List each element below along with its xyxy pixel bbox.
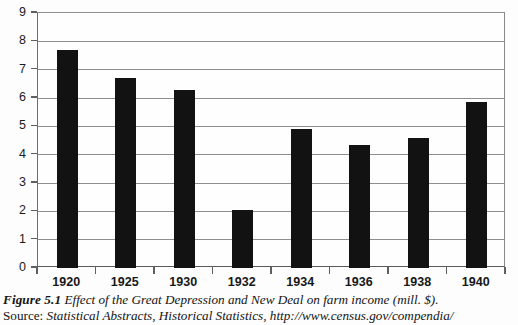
x-axis-tick bbox=[36, 267, 37, 274]
y-axis-tick-label: 4 bbox=[0, 148, 26, 160]
gridline bbox=[38, 154, 504, 155]
y-axis-tick-label: 3 bbox=[0, 176, 26, 188]
y-axis-tick-label: 7 bbox=[0, 63, 26, 75]
y-axis-tick-label: 1 bbox=[0, 233, 26, 245]
y-axis-tick-label: 0 bbox=[0, 261, 26, 273]
bar-chart: 0123456789 19201925193019321934193619381… bbox=[0, 0, 518, 292]
y-axis-tick-label: 6 bbox=[0, 91, 26, 103]
figure-page: 0123456789 19201925193019321934193619381… bbox=[0, 0, 518, 325]
plot-area bbox=[37, 12, 505, 267]
figure-source: Source: Statistical Abstracts, Historica… bbox=[0, 308, 518, 323]
source-text: Statistical Abstracts, Historical Statis… bbox=[47, 308, 454, 323]
caption-block: Figure 5.1 Effect of the Great Depressio… bbox=[0, 292, 518, 323]
gridline bbox=[38, 98, 504, 99]
source-label: Source: bbox=[3, 308, 43, 323]
bar bbox=[466, 102, 487, 268]
y-axis-tick-label: 2 bbox=[0, 204, 26, 216]
gridline bbox=[38, 126, 504, 127]
x-axis-tick bbox=[95, 267, 96, 274]
x-axis-tick bbox=[212, 267, 213, 274]
x-axis-tick bbox=[446, 267, 447, 274]
x-axis-tick bbox=[329, 267, 330, 274]
bar bbox=[232, 210, 253, 268]
x-axis-tick-label: 1932 bbox=[212, 276, 272, 289]
bar bbox=[174, 90, 195, 269]
bar bbox=[291, 129, 312, 268]
y-axis-tick-label: 5 bbox=[0, 119, 26, 131]
x-axis-tick bbox=[153, 267, 154, 274]
gridline bbox=[38, 41, 504, 42]
bar bbox=[57, 50, 78, 268]
x-axis-tick-label: 1940 bbox=[446, 276, 506, 289]
gridline bbox=[38, 69, 504, 70]
x-axis-tick-label: 1920 bbox=[36, 276, 96, 289]
y-axis-tick-label: 8 bbox=[0, 34, 26, 46]
x-axis-tick-label: 1925 bbox=[95, 276, 155, 289]
figure-caption-text: Effect of the Great Depression and New D… bbox=[64, 292, 438, 307]
gridline bbox=[38, 239, 504, 240]
x-axis-tick bbox=[387, 267, 388, 274]
bar bbox=[349, 145, 370, 268]
x-axis-tick-label: 1936 bbox=[329, 276, 389, 289]
x-axis-tick-label: 1934 bbox=[270, 276, 330, 289]
bar bbox=[408, 138, 429, 268]
x-axis-tick bbox=[504, 267, 505, 274]
x-axis-tick-label: 1938 bbox=[387, 276, 447, 289]
figure-number: Figure 5.1 bbox=[3, 292, 61, 307]
gridline bbox=[38, 183, 504, 184]
y-axis-tick-label: 9 bbox=[0, 6, 26, 18]
figure-caption: Figure 5.1 Effect of the Great Depressio… bbox=[0, 292, 518, 307]
x-axis-tick-label: 1930 bbox=[153, 276, 213, 289]
x-axis-tick bbox=[270, 267, 271, 274]
gridline bbox=[38, 211, 504, 212]
bar bbox=[115, 78, 136, 268]
